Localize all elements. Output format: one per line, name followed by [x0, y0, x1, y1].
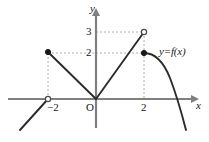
open-point-2-3 — [141, 29, 146, 34]
segment-below-axis-left — [20, 99, 48, 130]
segment-ascending — [96, 32, 144, 99]
x-tick-label-2: 2 — [141, 102, 147, 113]
function-annotation-label: y=f(x) — [159, 46, 185, 57]
graph-canvas — [0, 0, 209, 142]
x-axis-label: x — [196, 100, 201, 111]
origin-label: O — [86, 102, 94, 113]
filled-point-minus2-2 — [45, 49, 50, 54]
axes — [8, 8, 199, 128]
y-tick-label-2: 2 — [86, 47, 92, 58]
segment-descending — [48, 52, 96, 99]
filled-point-2-2 — [141, 50, 146, 55]
segment-parabolic-arc — [144, 53, 186, 130]
y-tick-label-3: 3 — [86, 26, 92, 37]
x-tick-label-minus-2: −2 — [47, 102, 59, 113]
y-axis-label: y — [90, 3, 95, 14]
function-graph-figure: y x O 3 2 −2 2 y=f(x) — [0, 0, 209, 142]
